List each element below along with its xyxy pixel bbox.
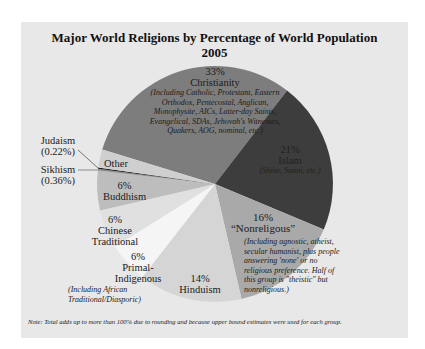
label-nonreligious: 16% “Nonreligous” <box>228 212 298 234</box>
primal-detail: (Including African Traditional/Diasporic… <box>68 285 141 304</box>
leader-line-judaism <box>78 150 98 168</box>
nonreligious-detail-line: secular humanist, plus people <box>244 247 340 257</box>
chinese-name-line1: Chinese <box>85 225 145 236</box>
christianity-detail-line: Orthodox, Pentecostal, Anglican, <box>120 98 310 108</box>
nonreligious-name: “Nonreligous” <box>228 223 298 234</box>
primal-name-line1: Primal- <box>108 262 168 273</box>
buddhism-percent: 6% <box>97 180 152 191</box>
christianity-detail-line: Evangelical, SDAs, Jehovah's Witnesses, <box>120 117 310 127</box>
judaism-name: Judaism <box>36 135 80 146</box>
label-islam: 21% Islam (Shiite, Sunni, etc.) <box>245 144 335 176</box>
label-sikhism: Sikhism (0.36%) <box>36 164 80 186</box>
sikhism-percent: (0.36%) <box>36 175 80 186</box>
label-chinese-traditional: 6% Chinese Traditional <box>85 214 145 247</box>
nonreligious-detail: (Including agnostic, atheist, secular hu… <box>244 237 340 294</box>
christianity-detail: (Including Catholic, Protestant, Eastern… <box>120 88 310 136</box>
nonreligious-detail-line: religious preference. Half of <box>244 266 340 276</box>
label-judaism: Judaism (0.22%) <box>36 135 80 157</box>
label-primal-indigenous: 6% Primal- Indigenous <box>108 251 168 284</box>
primal-detail-line: (Including African <box>68 285 141 295</box>
christianity-detail-line: Quakers, AOG, nominal, etc.) <box>120 126 310 136</box>
sikhism-name: Sikhism <box>36 164 80 175</box>
nonreligious-detail-line: nonreligious.) <box>244 285 340 295</box>
chinese-name-line2: Traditional <box>85 236 145 247</box>
primal-percent: 6% <box>108 251 168 262</box>
judaism-percent: (0.22%) <box>36 146 80 157</box>
label-christianity: 33% Christianity (Including Catholic, Pr… <box>120 66 310 136</box>
nonreligious-detail-line: answering 'none' or no <box>244 256 340 266</box>
other-name: Other <box>104 158 128 169</box>
islam-detail: (Shiite, Sunni, etc.) <box>245 166 335 176</box>
primal-name-line2: Indigenous <box>108 273 168 284</box>
chinese-percent: 6% <box>85 214 145 225</box>
christianity-name: Christianity <box>120 77 310 88</box>
primal-detail-line: Traditional/Diasporic) <box>68 295 141 305</box>
label-hinduism: 14% Hinduism <box>170 273 230 295</box>
hinduism-name: Hinduism <box>170 284 230 295</box>
islam-name: Islam <box>245 155 335 166</box>
buddhism-name: Buddhism <box>97 191 152 202</box>
footnote: Note: Total adds up to more than 100% du… <box>28 318 342 325</box>
nonreligious-detail-line: this group is "theistic" but <box>244 275 340 285</box>
label-other: Other <box>104 158 128 169</box>
christianity-percent: 33% <box>120 66 310 77</box>
christianity-detail-line: Monophysite, AICs, Latter-day Saints, <box>120 107 310 117</box>
label-buddhism: 6% Buddhism <box>97 180 152 202</box>
nonreligious-detail-line: (Including agnostic, atheist, <box>244 237 340 247</box>
christianity-detail-line: (Including Catholic, Protestant, Eastern <box>120 88 310 98</box>
hinduism-percent: 14% <box>170 273 230 284</box>
islam-percent: 21% <box>245 144 335 155</box>
